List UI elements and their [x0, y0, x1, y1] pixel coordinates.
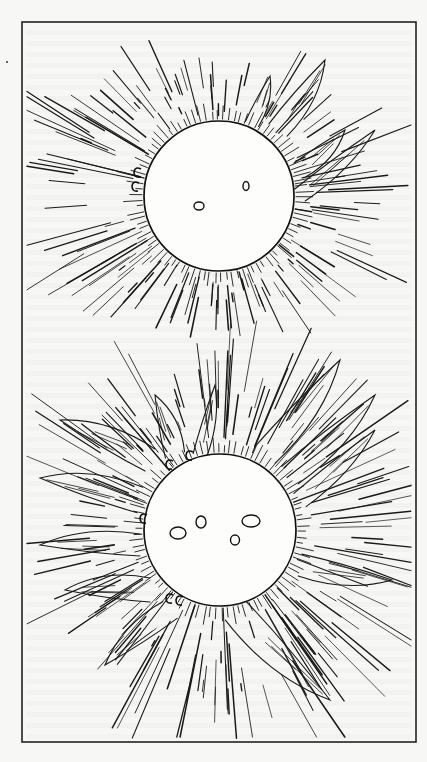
solar-disk: [144, 454, 296, 606]
sun-corona-illustration: [0, 0, 427, 762]
solar-disk: [144, 121, 294, 271]
page-marker-dot: [6, 61, 8, 63]
